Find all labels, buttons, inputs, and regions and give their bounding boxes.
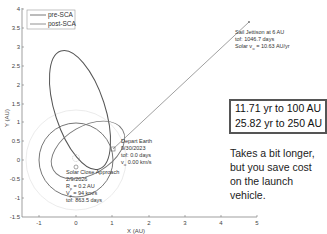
y-tick-label: 1 — [17, 119, 21, 125]
result-box: 11.71 yr to 100 AU 25.82 yr to 250 AU — [229, 99, 327, 134]
x-tick-label: 0 — [74, 220, 78, 226]
legend: pre-SCA post-SCA — [27, 10, 76, 29]
y-tick-label: 3.5 — [12, 25, 21, 31]
y-tick-label: -1 — [15, 195, 21, 201]
svg-text:tof: 1046.7 days: tof: 1046.7 days — [235, 36, 274, 42]
y-tick-label: -1.5 — [10, 214, 21, 220]
svg-text:Sail Jettison at 6 AU: Sail Jettison at 6 AU — [235, 29, 284, 35]
note-text: Takes a bit longer, but you save cost on… — [230, 146, 325, 202]
legend-pre-sca: pre-SCA — [48, 11, 74, 19]
sail-jettison-annotation: Sail Jettison at 6 AU tof: 1046.7 days S… — [235, 29, 290, 51]
x-tick-label: 2 — [147, 220, 151, 226]
svg-text:Solar v∞ = 10.63 AU/yr: Solar v∞ = 10.63 AU/yr — [235, 43, 290, 51]
y-axis-label: Y (AU) — [4, 109, 10, 127]
y-tick-label: 3 — [17, 44, 21, 50]
svg-text:Solar Close Approach: Solar Close Approach — [66, 169, 119, 175]
y-tick-label: 0 — [17, 157, 21, 163]
x-tick-label: 3 — [183, 220, 187, 226]
x-axis-label: X (AU) — [127, 228, 145, 234]
result-line-250au: 25.82 yr to 250 AU — [235, 116, 325, 131]
axes — [22, 8, 257, 217]
x-tick-label: -1 — [36, 220, 42, 226]
svg-text:9/30/2023: 9/30/2023 — [121, 145, 145, 151]
x-tick-label: 1 — [110, 220, 114, 226]
svg-text:Depart Earth: Depart Earth — [121, 138, 152, 144]
jettison-marker — [248, 21, 250, 23]
x-tick-label: 5 — [255, 220, 259, 226]
legend-post-sca: post-SCA — [48, 20, 76, 28]
y-tick-label: 1.5 — [12, 101, 21, 107]
svg-text:tof: 0.0 days: tof: 0.0 days — [121, 152, 151, 158]
svg-text:2/9/2026: 2/9/2026 — [66, 176, 87, 182]
y-tick-label: 0.5 — [12, 138, 21, 144]
result-line-100au: 11.71 yr to 100 AU — [235, 101, 325, 116]
y-tick-label: 2 — [17, 82, 21, 88]
x-tick-label: 4 — [219, 220, 223, 226]
y-tick-label: 4 — [17, 6, 21, 12]
svg-text:tof: 863.5 days: tof: 863.5 days — [66, 197, 102, 203]
y-tick-label: 2.5 — [12, 63, 21, 69]
y-tick-label: -0.5 — [10, 176, 21, 182]
svg-text:v∞ 0.00 km/s: v∞ 0.00 km/s — [121, 159, 152, 167]
depart-earth-annotation: Depart Earth 9/30/2023 tof: 0.0 days v∞ … — [121, 138, 152, 167]
solar-close-approach-annotation: Solar Close Approach 2/9/2026 Rp = 0.2 A… — [66, 169, 119, 203]
